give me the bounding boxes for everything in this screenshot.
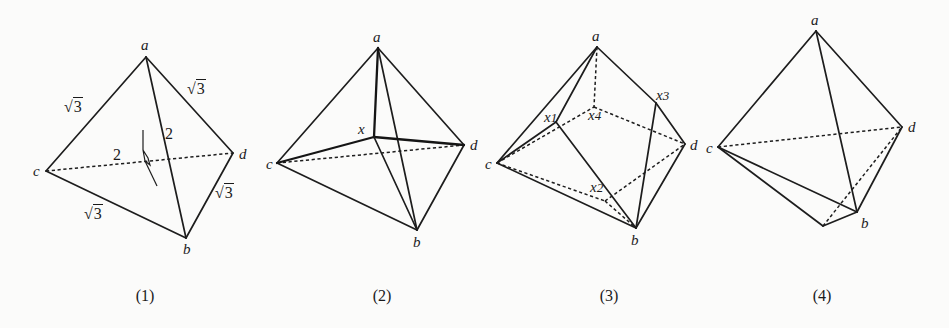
edge-c-d-hidden	[277, 145, 464, 163]
vertex-label-x: x	[358, 122, 365, 137]
figure-caption-1: (1)	[136, 288, 155, 304]
edge-a-d	[146, 57, 233, 153]
vertex-label-a: a	[811, 13, 819, 28]
vertex-label-x2: x2	[590, 180, 603, 195]
vertex-label-b: b	[631, 233, 639, 248]
vertex-label-a: a	[592, 29, 600, 44]
edge-x1-b	[556, 122, 636, 228]
edge-a-c	[277, 48, 378, 163]
edge-a-x3	[597, 47, 656, 103]
vertex-label-x4: x4	[588, 108, 601, 123]
edge-c-d-hidden	[46, 153, 233, 171]
edge-a-c	[46, 57, 146, 171]
edge-a-d	[378, 48, 464, 145]
x3-base: x	[656, 87, 663, 103]
edge-b-d	[857, 127, 902, 212]
edge-x2-b-hidden	[605, 201, 636, 228]
edge-length-ac-value: 3	[73, 97, 83, 115]
vertex-label-c: c	[706, 141, 713, 156]
x1-base: x	[544, 109, 551, 125]
vertex-label-x1: x1	[544, 110, 557, 125]
edge-b-d	[417, 145, 464, 230]
edge-c-b	[277, 163, 417, 230]
edge-c-e	[718, 147, 823, 226]
edge-length-bd-value: 3	[224, 183, 234, 201]
vertex-label-c: c	[33, 164, 40, 179]
edge-x-d	[374, 137, 464, 145]
edge-length-cd: 2	[113, 147, 121, 163]
edge-length-ac: √3	[64, 97, 83, 115]
dihedral-angle-mark	[143, 130, 157, 186]
edge-length-ab: 2	[165, 126, 173, 142]
figure-caption-4: (4)	[813, 288, 832, 304]
x3-sub: 3	[663, 88, 670, 103]
edge-c-x	[277, 137, 374, 163]
x2-base: x	[590, 179, 597, 195]
vertex-label-d: d	[690, 138, 698, 153]
figure-3-tetrahedron	[497, 47, 685, 228]
edge-x2-d-hidden	[605, 144, 685, 201]
vertex-label-a: a	[141, 38, 149, 53]
figure-panel: a c d b √3 √3 2 2 √3 √3 (1) a x c d b (2…	[0, 0, 949, 328]
edge-a-b	[816, 31, 857, 212]
edge-length-bd: √3	[215, 183, 234, 201]
edge-c-b	[46, 171, 186, 238]
figure-2-tetrahedron	[277, 48, 464, 230]
vertex-label-a: a	[373, 30, 381, 45]
vertex-label-x3: x3	[656, 88, 669, 103]
edge-c-b	[718, 147, 857, 212]
edge-length-ad-value: 3	[196, 79, 206, 97]
vertex-label-d: d	[470, 138, 478, 153]
vertex-label-b: b	[183, 242, 191, 257]
edge-e-d-hidden	[823, 127, 902, 226]
edge-a-c	[718, 31, 816, 147]
edge-a-x	[374, 48, 378, 137]
edge-c-d-hidden	[718, 127, 902, 147]
figure-caption-3: (3)	[600, 288, 619, 304]
vertex-label-b: b	[861, 216, 869, 231]
edge-length-ad: √3	[187, 79, 206, 97]
edge-length-bc-value: 3	[93, 204, 103, 222]
edge-a-x4-hidden	[594, 47, 597, 107]
x4-sub: 4	[595, 108, 602, 123]
edge-c-x2-hidden	[497, 163, 605, 201]
edge-a-b	[146, 57, 186, 238]
edge-c-b	[497, 163, 636, 228]
vertex-label-c: c	[485, 157, 492, 172]
vertex-label-d: d	[239, 147, 247, 162]
figure-4-tetrahedron	[718, 31, 902, 226]
vertex-label-d: d	[908, 120, 916, 135]
x2-sub: 2	[597, 180, 604, 195]
edge-a-c	[497, 47, 597, 163]
figure-caption-2: (2)	[373, 288, 392, 304]
vertex-label-c: c	[266, 157, 273, 172]
x1-sub: 1	[551, 110, 558, 125]
vertex-label-b: b	[413, 235, 421, 250]
edge-a-d	[816, 31, 902, 127]
x4-base: x	[588, 107, 595, 123]
edge-length-bc: √3	[84, 204, 103, 222]
